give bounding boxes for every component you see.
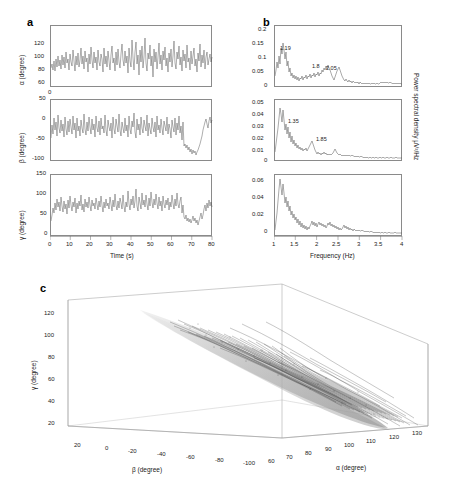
- ytick-b2-0p02: 0.02: [252, 135, 264, 141]
- xtick-a-70: 70: [188, 241, 195, 247]
- ztick-c-40: 40: [48, 398, 55, 404]
- xtick-c-0: 0: [105, 445, 108, 451]
- ytick-b2-0p03: 0.03: [252, 123, 264, 129]
- xtick-a-80: 80: [208, 241, 215, 247]
- xtick-b-3p5: 3.5: [374, 241, 382, 247]
- ztick-c-100: 100: [44, 332, 54, 338]
- ytick-alpha-100: 100: [34, 53, 44, 59]
- xtick-a-10: 10: [66, 241, 73, 247]
- ytick-c-120: 120: [389, 434, 399, 440]
- ztick-c-60: 60: [48, 376, 55, 382]
- ytick-beta-0: 0: [42, 115, 45, 121]
- ytick-gamma-0: 0: [44, 230, 47, 236]
- axis-label-power-spectral-density: Power spectral density μV²/Hz: [413, 73, 420, 160]
- axis-label-gamma-degree: γ (degree): [18, 210, 25, 240]
- ytick-alpha-60: 60: [38, 79, 45, 85]
- panel-letter-a: a: [27, 16, 33, 28]
- ytick-c-60: 60: [268, 458, 275, 464]
- xtick-b-1p5: 1.5: [290, 241, 298, 247]
- peak-label-1p85: 1.85: [316, 136, 327, 142]
- axis-label-time-s: Time (s): [110, 252, 134, 259]
- xtick-c-neg100: -100: [243, 460, 255, 466]
- ytick-b2-0p05: 0.05: [252, 99, 264, 105]
- ytick-c-70: 70: [286, 454, 293, 460]
- xtick-c-neg40: -40: [157, 451, 166, 457]
- ytick-b3-0: 0: [264, 228, 267, 234]
- xtick-b-1: 1: [272, 241, 275, 247]
- xtick-a-0: 0: [48, 241, 51, 247]
- ytick-gamma-150: 150: [36, 170, 46, 176]
- plot-alpha-time-series: [50, 25, 212, 87]
- xtick-c-neg20: -20: [128, 448, 137, 454]
- ytick-c-100: 100: [344, 442, 354, 448]
- ytick-beta-neg50: -50: [36, 135, 45, 141]
- ytick-beta-50: 50: [39, 95, 46, 101]
- figure-root: a α (degree) 120 100 80 60 0 β (degree) …: [0, 0, 457, 486]
- ytick-gamma-50: 50: [40, 210, 47, 216]
- axis-label-gamma-degree-3d: γ (degree): [30, 360, 37, 390]
- ztick-c-80: 80: [48, 354, 55, 360]
- peak-label-2p05: 2.05: [326, 65, 337, 71]
- plot-3d-state-space: [20, 278, 440, 458]
- ytick-alpha-120: 120: [34, 40, 44, 46]
- ytick-b1-0p2: 0.2: [258, 26, 266, 32]
- ytick-b3-0p06: 0.06: [252, 177, 264, 183]
- plot-gamma-time-series: [50, 174, 212, 236]
- plot-gamma-psd: [274, 174, 402, 236]
- plot-beta-psd: [274, 99, 402, 161]
- plot-alpha-psd: [274, 25, 402, 87]
- peak-label-1p19: 1.19: [280, 45, 291, 51]
- ytick-c-110: 110: [366, 438, 376, 444]
- ytick-gamma-100: 100: [36, 190, 46, 196]
- ytick-b3-0p04: 0.04: [252, 194, 264, 200]
- ztick-c-120: 120: [44, 310, 54, 316]
- ytick-b2-0p04: 0.04: [252, 111, 264, 117]
- peak-label-1p35: 1.35: [288, 118, 299, 124]
- ytick-b1-0p05: 0.05: [252, 68, 264, 74]
- ytick-c-130: 130: [412, 430, 422, 436]
- ztick-c-20: 20: [48, 420, 55, 426]
- ytick-c-90: 90: [325, 446, 332, 452]
- xtick-b-4: 4: [400, 241, 403, 247]
- xtick-a-60: 60: [167, 241, 174, 247]
- xtick-a-30: 30: [106, 241, 113, 247]
- peak-label-1p8: 1.8: [312, 63, 320, 69]
- xtick-a-50: 50: [147, 241, 154, 247]
- axis-label-beta-degree-3d: β (degree): [132, 466, 162, 473]
- plot-beta-time-series: [50, 99, 212, 161]
- ytick-beta-neg100: -100: [32, 155, 44, 161]
- xtick-c-neg60: -60: [186, 454, 195, 460]
- ytick-b1-0p1: 0.1: [258, 54, 266, 60]
- xtick-c-20: 20: [74, 442, 81, 448]
- ytick-c-80: 80: [305, 450, 312, 456]
- ytick-b1-0: 0: [264, 82, 267, 88]
- axis-label-frequency-hz: Frequency (Hz): [310, 252, 355, 259]
- axis-label-beta-degree: β (degree): [18, 133, 25, 163]
- xtick-b-2: 2: [315, 241, 318, 247]
- ytick-b2-0: 0: [264, 157, 267, 163]
- axis-label-alpha-degree-3d: α (degree): [336, 464, 366, 471]
- xtick-a-alpha-0: 0: [48, 89, 51, 95]
- xtick-b-2p5: 2.5: [332, 241, 340, 247]
- xtick-a-20: 20: [86, 241, 93, 247]
- axis-label-alpha-degree: α (degree): [18, 55, 25, 85]
- xtick-c-neg80: -80: [215, 457, 224, 463]
- ytick-b1-0p15: 0.15: [252, 40, 264, 46]
- ytick-alpha-80: 80: [38, 66, 45, 72]
- xtick-b-3: 3: [357, 241, 360, 247]
- xtick-a-40: 40: [127, 241, 134, 247]
- ytick-b3-0p02: 0.02: [252, 211, 264, 217]
- ytick-b2-0p01: 0.01: [252, 147, 264, 153]
